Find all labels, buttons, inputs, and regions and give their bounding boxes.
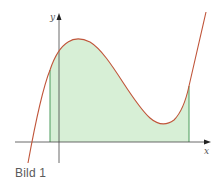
y-axis-arrow-icon [57,13,62,20]
x-axis-label: x [204,146,209,156]
y-axis-label: y [49,12,56,22]
x-axis-arrow-icon [204,140,211,145]
shaded-area [50,39,189,142]
function-graph: y x [0,0,224,189]
figure-caption: Bild 1 [15,166,46,180]
